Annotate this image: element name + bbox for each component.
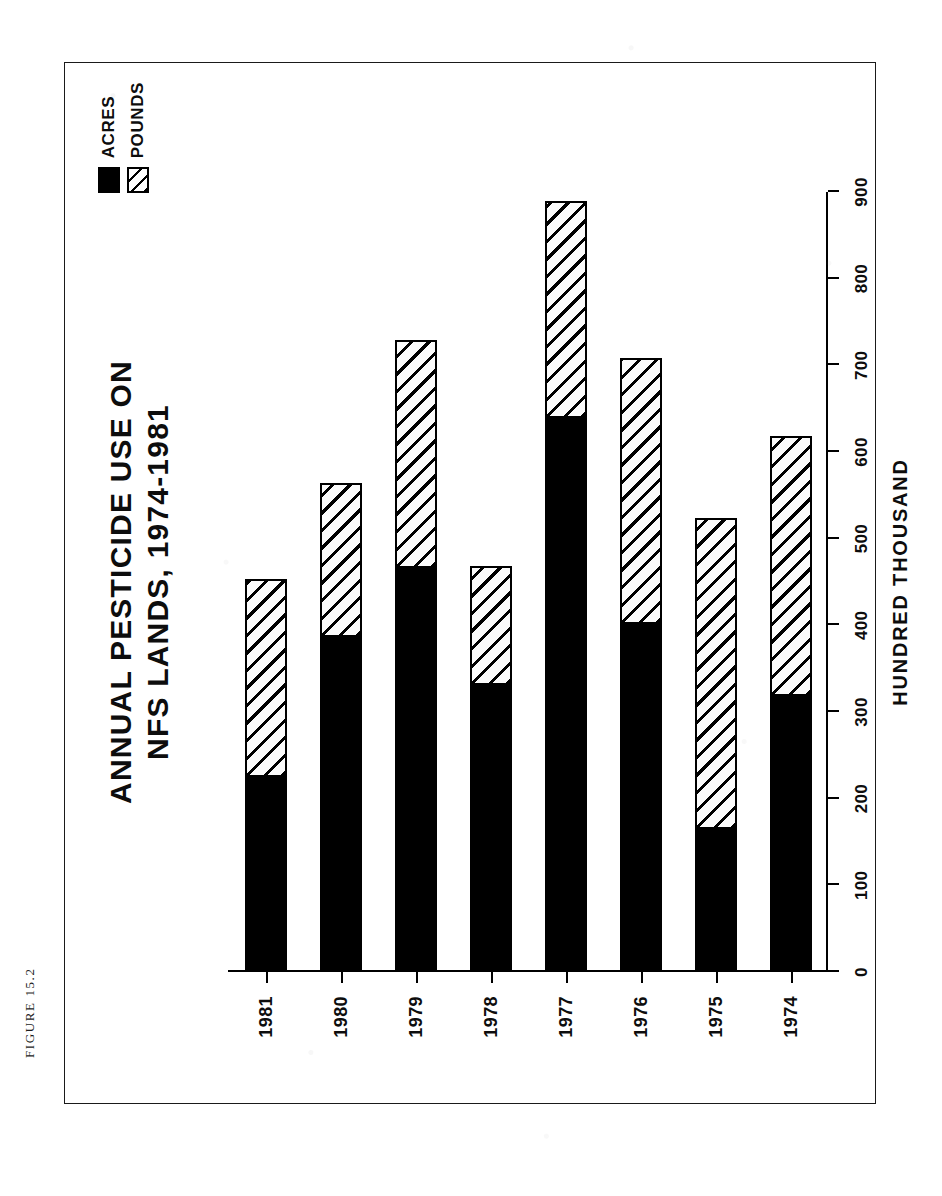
- bar-segment-pounds: [695, 518, 737, 829]
- value-tick-label: 400: [852, 611, 872, 640]
- value-tick: [828, 883, 839, 885]
- value-tick: [828, 970, 839, 972]
- category-tick-label: 1980: [330, 996, 351, 1038]
- category-tick-label: 1974: [780, 996, 801, 1038]
- bar-segment-acres: [320, 637, 362, 972]
- category-tick-label: 1979: [405, 996, 426, 1038]
- value-tick-label: 0: [852, 967, 872, 977]
- category-tick: [791, 972, 793, 983]
- category-tick-label: 1981: [255, 996, 276, 1038]
- category-tick-label: 1975: [705, 996, 726, 1038]
- value-tick-label: 700: [852, 351, 872, 380]
- value-tick-label: 800: [852, 264, 872, 293]
- value-tick: [828, 363, 839, 365]
- value-tick: [828, 277, 839, 279]
- bar-segment-pounds: [770, 436, 812, 697]
- figure-caption: FIGURE 15.2: [22, 967, 38, 1058]
- value-tick-label: 900: [852, 177, 872, 206]
- category-tick-label: 1977: [555, 996, 576, 1038]
- bar-segment-acres: [395, 568, 437, 972]
- category-tick: [491, 972, 493, 983]
- legend-label-pounds: POUNDS: [128, 82, 148, 158]
- category-tick: [641, 972, 643, 983]
- bar-segment-acres: [470, 685, 512, 972]
- bar-segment-acres: [770, 696, 812, 972]
- bar-stack-1977: [545, 201, 587, 972]
- bar-segment-acres: [620, 624, 662, 972]
- value-tick: [828, 710, 839, 712]
- bar-stack-1979: [395, 340, 437, 972]
- bar-segment-pounds: [470, 566, 512, 685]
- value-axis-title: HUNDRED THOUSAND: [889, 192, 912, 972]
- bar-segment-pounds: [620, 358, 662, 624]
- category-tick: [566, 972, 568, 983]
- bar-segment-pounds: [245, 579, 287, 777]
- hatched-swatch-icon: [127, 167, 149, 193]
- bar-segment-acres: [695, 829, 737, 972]
- value-tick-label: 200: [852, 784, 872, 813]
- value-tick: [828, 623, 839, 625]
- chart-title-line-2: NFS LANDS, 1974-1981: [139, 72, 176, 1092]
- category-tick-label: 1976: [630, 996, 651, 1038]
- bar-stack-1981: [245, 579, 287, 972]
- bar-stack-1978: [470, 566, 512, 972]
- bar-segment-pounds: [395, 340, 437, 568]
- value-tick: [828, 190, 839, 192]
- value-tick-label: 300: [852, 697, 872, 726]
- value-axis-line: [826, 192, 828, 972]
- value-tick: [828, 797, 839, 799]
- chart-title: ANNUAL PESTICIDE USE ON NFS LANDS, 1974-…: [102, 72, 176, 1092]
- rotated-chart-canvas: ANNUAL PESTICIDE USE ON NFS LANDS, 1974-…: [78, 72, 868, 1092]
- value-tick: [828, 537, 839, 539]
- bar-segment-acres: [245, 777, 287, 972]
- bar-stack-1976: [620, 358, 662, 972]
- value-tick-label: 600: [852, 437, 872, 466]
- value-tick-label: 500: [852, 524, 872, 553]
- bar-stack-1980: [320, 483, 362, 972]
- category-tick: [266, 972, 268, 983]
- category-tick-label: 1978: [480, 996, 501, 1038]
- bar-segment-acres: [545, 418, 587, 972]
- bar-stack-1975: [695, 518, 737, 972]
- category-tick: [716, 972, 718, 983]
- category-tick: [416, 972, 418, 983]
- plot-area: 0100200300400500600700800900197419751976…: [228, 192, 828, 972]
- bar-segment-pounds: [545, 201, 587, 419]
- chart-title-line-1: ANNUAL PESTICIDE USE ON: [102, 72, 139, 1092]
- value-tick: [828, 450, 839, 452]
- category-tick: [341, 972, 343, 983]
- category-axis-line: [228, 970, 828, 972]
- bar-segment-pounds: [320, 483, 362, 637]
- value-tick-label: 100: [852, 871, 872, 900]
- bar-stack-1974: [770, 436, 812, 972]
- legend-item-acres: ACRES: [98, 96, 120, 194]
- legend-label-acres: ACRES: [99, 96, 119, 159]
- solid-black-swatch-icon: [98, 167, 120, 193]
- legend-item-pounds: POUNDS: [127, 82, 149, 193]
- chart-legend: ACRES POUNDS: [98, 82, 149, 193]
